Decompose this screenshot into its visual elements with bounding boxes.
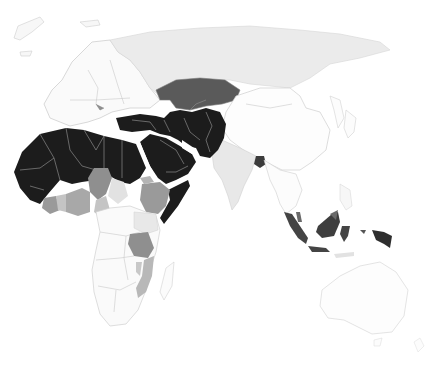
region-japan <box>344 110 356 138</box>
region-madagascar <box>160 262 174 300</box>
region-indonesia <box>284 210 392 258</box>
region-korea-japan <box>330 96 344 128</box>
region-philippines <box>340 184 352 210</box>
region-bangladesh <box>254 156 266 168</box>
region-russia <box>110 26 390 96</box>
region-new-zealand <box>414 338 424 352</box>
choropleth-map <box>0 0 433 370</box>
map-svg <box>0 0 433 370</box>
region-central-south-africa <box>92 206 160 326</box>
region-australia <box>320 262 408 346</box>
